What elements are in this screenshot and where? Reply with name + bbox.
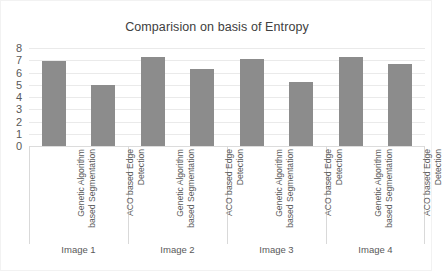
- group-label: Image 1: [29, 244, 128, 255]
- bar: [240, 59, 264, 146]
- group-label: Image 4: [326, 244, 425, 255]
- y-axis-tick-label: 2: [16, 116, 22, 127]
- series-label: Genetic Algorithm based Segmentation: [373, 149, 419, 237]
- y-axis-tick-label: 7: [16, 55, 22, 66]
- series-label: Genetic Algorithm based Segmentation: [274, 149, 320, 237]
- group-separator: [29, 149, 30, 244]
- bar: [289, 82, 313, 146]
- gridline: [29, 97, 425, 98]
- series-label: Genetic Algorithm based Segmentation: [175, 149, 221, 237]
- gridline: [29, 60, 425, 61]
- gridline: [29, 85, 425, 86]
- gridline: [29, 134, 425, 135]
- y-axis-tick-label: 1: [16, 128, 22, 139]
- y-axis-tick-label: 3: [16, 104, 22, 115]
- y-axis-tick-label: 0: [16, 141, 22, 152]
- bar: [91, 85, 115, 146]
- group-axis-labels: Image 1Image 2Image 3Image 4: [29, 244, 425, 264]
- series-axis-labels: Genetic Algorithm based SegmentationACO …: [29, 149, 425, 237]
- y-axis: 012345678: [1, 48, 27, 146]
- bar: [190, 69, 214, 146]
- gridline: [29, 122, 425, 123]
- series-label: ACO based Edge Detection: [224, 149, 270, 237]
- group-label: Image 2: [128, 244, 227, 255]
- group-label: Image 3: [227, 244, 326, 255]
- y-axis-tick-label: 8: [16, 43, 22, 54]
- y-axis-tick-label: 4: [16, 92, 22, 103]
- series-label: ACO based Edge Detection: [422, 149, 446, 237]
- bar: [141, 57, 165, 146]
- bar: [339, 57, 363, 146]
- series-label: ACO based Edge Detection: [125, 149, 171, 237]
- plot-area: [29, 48, 425, 146]
- series-label: Genetic Algorithm based Segmentation: [76, 149, 122, 237]
- gridline: [29, 109, 425, 110]
- bar: [42, 61, 66, 146]
- gridline: [29, 73, 425, 74]
- chart-title: Comparision on basis of Entropy: [1, 20, 433, 34]
- y-axis-tick-label: 6: [16, 67, 22, 78]
- gridline: [29, 48, 425, 49]
- bar: [388, 64, 412, 146]
- series-label: ACO based Edge Detection: [323, 149, 369, 237]
- y-axis-tick-label: 5: [16, 79, 22, 90]
